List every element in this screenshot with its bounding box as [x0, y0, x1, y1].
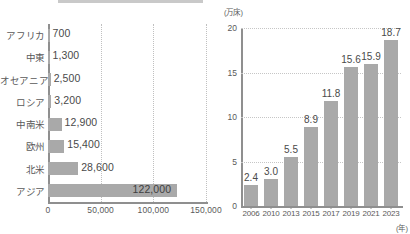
x-tick-label: 2010 — [263, 209, 280, 218]
y-tick-label: 20 — [208, 23, 237, 33]
bar-value-label: 2,500 — [54, 72, 81, 84]
category-label: 中南米 — [0, 117, 45, 131]
bar — [48, 73, 51, 86]
bar-value-label: 11.8 — [322, 88, 341, 99]
gridline — [241, 28, 401, 30]
x-tick-label: 2017 — [323, 209, 340, 218]
x-tick-label: 50,000 — [87, 205, 114, 215]
category-label: ロシア — [0, 95, 45, 109]
x-tick-label: 2013 — [283, 209, 300, 218]
category-label: アフリカ — [0, 28, 45, 42]
bar — [344, 67, 358, 206]
two-panel-bar-chart-figure: アフリカ700中東1,300オセアニア2,500ロシア3,200中南米12,90… — [0, 0, 410, 234]
x-tick-label: 0 — [46, 205, 51, 215]
x-tick-label: 2019 — [343, 209, 360, 218]
y-tick-label: 5 — [208, 157, 237, 167]
bar — [48, 51, 50, 64]
right-chart-y-axis-unit-label: (万床) — [224, 6, 243, 17]
yearly-bar-chart: (万床) 05101520 2.43.05.58.911.815.615.918… — [208, 0, 410, 234]
bar — [264, 179, 278, 206]
y-tick-label: 0 — [208, 201, 237, 211]
y-tick-label: 10 — [208, 112, 237, 122]
bar-value-label: 5.5 — [284, 144, 298, 155]
bar-row: 中東1,300 — [0, 46, 208, 68]
right-chart-x-axis-unit-label: (年) — [396, 222, 408, 233]
bar — [48, 29, 50, 42]
bar — [48, 162, 78, 175]
bar-value-label: 28,600 — [81, 161, 114, 173]
bar-value-label: 1,300 — [53, 49, 80, 61]
bar-value-label: 18.7 — [381, 27, 400, 38]
x-tick-label: 2015 — [303, 209, 320, 218]
bar-value-label: 12,900 — [65, 116, 98, 128]
x-tick-label: 2006 — [243, 209, 260, 218]
bar-row: 北米28,600 — [0, 158, 208, 180]
bar-value-label: 15.9 — [361, 51, 380, 62]
bar-row: アジア122,000 — [0, 180, 208, 202]
category-label: オセアニア — [0, 73, 45, 87]
regional-bar-chart: アフリカ700中東1,300オセアニア2,500ロシア3,200中南米12,90… — [0, 0, 208, 234]
category-label: 中東 — [0, 50, 45, 64]
bar-row: 中南米12,900 — [0, 113, 208, 135]
bar — [244, 185, 258, 206]
bar-value-label: 15,400 — [67, 138, 100, 150]
bar — [384, 40, 398, 206]
bar-row: オセアニア2,500 — [0, 69, 208, 91]
bar-value-label: 8.9 — [304, 114, 318, 125]
bar — [304, 127, 318, 206]
bar-value-label: 122,000 — [133, 183, 172, 195]
bar-value-label: 3.0 — [264, 166, 278, 177]
bar-row: アフリカ700 — [0, 24, 208, 46]
bar — [364, 64, 378, 206]
category-label: 欧州 — [0, 139, 45, 153]
bar — [324, 101, 338, 206]
bar-value-label: 15.6 — [341, 54, 360, 65]
bar — [48, 118, 62, 131]
bar-value-label: 2.4 — [244, 172, 258, 183]
bar-value-label: 700 — [53, 27, 71, 39]
bar-value-label: 3,200 — [54, 94, 81, 106]
category-label: アジア — [0, 184, 45, 198]
category-label: 北米 — [0, 162, 45, 176]
bar — [48, 140, 64, 153]
x-tick-label: 2023 — [383, 209, 400, 218]
x-tick-label: 2021 — [363, 209, 380, 218]
bar-row: ロシア3,200 — [0, 91, 208, 113]
x-tick-label: 100,000 — [138, 205, 169, 215]
left-chart-x-axis — [48, 202, 208, 204]
bar — [48, 95, 51, 108]
right-chart-x-axis — [241, 206, 403, 208]
bar-row: 欧州15,400 — [0, 135, 208, 157]
bar — [284, 157, 298, 206]
y-tick-label: 15 — [208, 68, 237, 78]
